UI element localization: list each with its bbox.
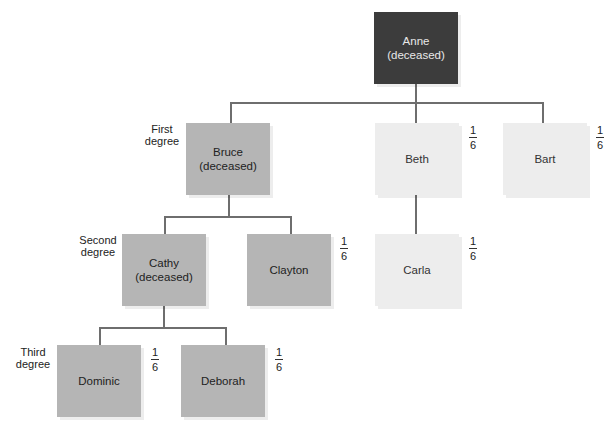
connector-third-degree-bar: [99, 327, 227, 329]
degree-label-third: Third degree: [10, 346, 56, 370]
node-deborah-label: Deborah: [201, 374, 245, 388]
share-deborah-numerator: 1: [274, 346, 284, 358]
degree-label-second-text: Second degree: [79, 234, 116, 258]
node-anne: Anne (deceased): [374, 12, 458, 84]
node-bart-label: Bart: [534, 152, 555, 166]
connector-cathy-down: [163, 306, 165, 329]
degree-label-first-text: First degree: [145, 123, 179, 147]
connector-anne-down: [415, 83, 417, 104]
node-bruce-label: Bruce (deceased): [199, 145, 257, 173]
connector-to-clayton: [290, 216, 292, 234]
share-dominic-denominator: 6: [150, 361, 160, 373]
connector-second-degree-bar: [164, 216, 292, 218]
connector-to-bruce: [230, 102, 232, 123]
share-clayton: 1 6: [339, 235, 349, 262]
share-carla-numerator: 1: [468, 235, 478, 247]
share-beth: 1 6: [468, 124, 478, 151]
node-bart: Bart: [503, 123, 587, 195]
share-clayton-numerator: 1: [339, 235, 349, 247]
degree-label-third-text: Third degree: [16, 346, 50, 370]
node-dominic: Dominic: [57, 345, 141, 417]
node-bruce: Bruce (deceased): [186, 123, 270, 195]
fraction-bar: [469, 248, 477, 249]
connector-first-degree-bar: [230, 102, 544, 104]
fraction-bar: [275, 359, 283, 360]
node-dominic-label: Dominic: [78, 374, 120, 388]
share-bart-numerator: 1: [595, 124, 605, 136]
connector-beth-to-carla: [415, 195, 417, 234]
node-clayton: Clayton: [247, 234, 331, 306]
fraction-bar: [340, 248, 348, 249]
node-cathy: Cathy (deceased): [122, 234, 206, 306]
share-beth-denominator: 6: [468, 139, 478, 151]
degree-label-first: First degree: [140, 123, 184, 147]
node-deborah: Deborah: [181, 345, 265, 417]
share-carla-denominator: 6: [468, 250, 478, 262]
node-beth-label: Beth: [405, 152, 429, 166]
share-beth-numerator: 1: [468, 124, 478, 136]
share-bart: 1 6: [595, 124, 605, 151]
degree-label-second: Second degree: [74, 234, 122, 258]
share-bart-denominator: 6: [595, 139, 605, 151]
fraction-bar: [151, 359, 159, 360]
fraction-bar: [596, 137, 604, 138]
share-dominic-numerator: 1: [150, 346, 160, 358]
share-carla: 1 6: [468, 235, 478, 262]
share-clayton-denominator: 6: [339, 250, 349, 262]
share-deborah-denominator: 6: [274, 361, 284, 373]
share-deborah: 1 6: [274, 346, 284, 373]
node-anne-label: Anne (deceased): [387, 34, 445, 62]
share-dominic: 1 6: [150, 346, 160, 373]
fraction-bar: [469, 137, 477, 138]
node-clayton-label: Clayton: [270, 263, 309, 277]
node-cathy-label: Cathy (deceased): [135, 256, 193, 284]
connector-to-deborah: [225, 327, 227, 345]
connector-to-dominic: [99, 327, 101, 345]
connector-to-beth: [415, 102, 417, 123]
node-carla-label: Carla: [403, 263, 430, 277]
connector-bruce-down: [228, 195, 230, 218]
node-carla: Carla: [375, 234, 459, 306]
node-beth: Beth: [375, 123, 459, 195]
connector-to-bart: [542, 102, 544, 123]
connector-to-cathy: [164, 216, 166, 234]
